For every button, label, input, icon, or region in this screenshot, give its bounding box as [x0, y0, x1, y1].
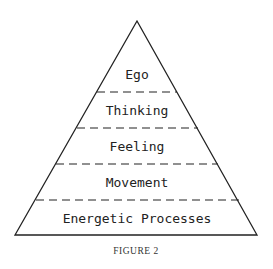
level-feeling: Feeling: [110, 139, 165, 154]
figure-caption: FIGURE 2: [113, 246, 158, 256]
level-ego: Ego: [125, 67, 148, 82]
pyramid-diagram: Ego Thinking Feeling Movement Energetic …: [0, 0, 273, 269]
level-thinking: Thinking: [106, 103, 169, 118]
level-movement: Movement: [106, 175, 169, 190]
level-energetic-processes: Energetic Processes: [63, 211, 212, 226]
